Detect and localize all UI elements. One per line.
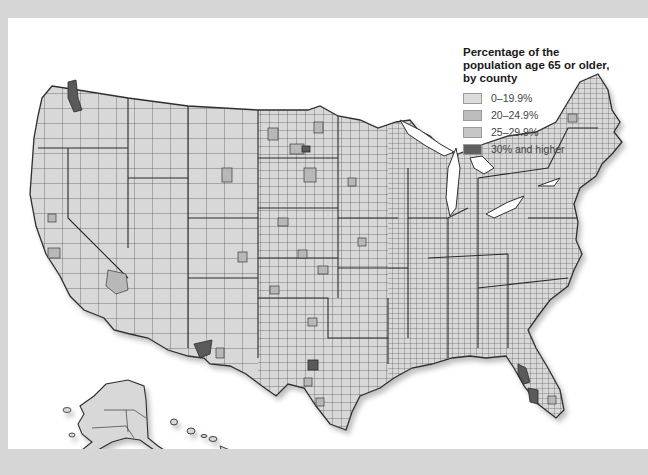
hawaii — [171, 419, 237, 449]
legend-item-0-19: 0–19.9% — [463, 90, 648, 106]
legend-label: 0–19.9% — [491, 92, 532, 104]
legend-item-30-plus: 30% and higher — [463, 141, 648, 157]
legend-item-20-24: 20–24.9% — [463, 107, 648, 123]
figure-frame: Percentage of the population age 65 or o… — [0, 0, 648, 475]
legend-swatch-30-plus — [463, 144, 482, 155]
legend-swatch-20-24 — [463, 110, 482, 121]
legend-label: 30% and higher — [491, 143, 565, 155]
legend-label: 25–29.9% — [491, 126, 538, 138]
legend-swatch-25-29 — [463, 127, 482, 138]
map-panel: Percentage of the population age 65 or o… — [8, 18, 648, 449]
legend-item-25-29: 25–29.9% — [463, 124, 648, 140]
legend-title: Percentage of the population age 65 or o… — [463, 46, 613, 85]
legend-swatch-0-19 — [463, 93, 482, 104]
legend-label: 20–24.9% — [491, 109, 538, 121]
alaska — [52, 380, 176, 449]
legend: Percentage of the population age 65 or o… — [463, 46, 648, 158]
